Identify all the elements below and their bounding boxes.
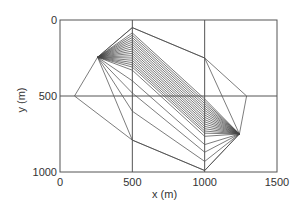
ray-path: [98, 57, 240, 136]
y-tick-label: 1000: [33, 166, 57, 178]
y-axis-ticks: 05001000: [33, 14, 57, 178]
y-tick-label: 0: [51, 14, 57, 26]
ray-path-chart: 050010001500 05001000 x (m) y (m): [0, 0, 305, 210]
x-tick-label: 1500: [265, 176, 289, 188]
x-tick-label: 500: [123, 176, 141, 188]
x-axis-ticks: 050010001500: [57, 176, 289, 188]
ray-paths: [75, 28, 247, 171]
x-tick-label: 1000: [192, 176, 216, 188]
y-axis-label: y (m): [15, 87, 27, 112]
x-tick-label: 0: [57, 176, 63, 188]
x-axis-label: x (m): [152, 188, 177, 200]
y-tick-label: 500: [39, 90, 57, 102]
